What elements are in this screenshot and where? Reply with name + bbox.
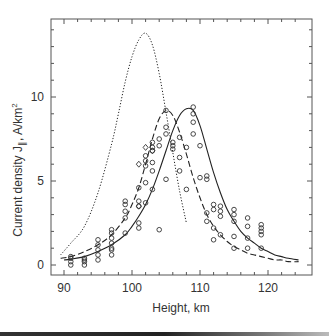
data-point [96,238,101,243]
y-axis-label: Current density J∥, A/km2 [10,103,27,237]
data-point [137,221,142,226]
data-point [150,160,155,165]
data-point [211,202,216,207]
data-point [150,140,155,145]
data-point [164,132,169,137]
data-point [232,234,237,239]
data-point [123,216,128,221]
data-point [218,204,223,209]
y-tick-label: 10 [31,90,45,104]
data-point [211,207,216,212]
data-point [218,209,223,214]
solid-fit-line [64,108,299,260]
x-tick-label: 90 [57,281,71,295]
bottom-bar [0,332,329,336]
data-point [245,246,250,251]
x-tick-label: 120 [258,281,278,295]
data-point-diamond [136,161,141,167]
x-tick-label: 100 [122,281,142,295]
x-tick-label: 110 [190,281,209,295]
data-point-diamond [143,144,148,150]
data-point [109,253,114,258]
data-point [164,177,169,182]
data-point [177,169,182,174]
plot-frame [51,19,312,275]
y-tick-label: 0 [37,258,44,272]
data-point [211,238,216,243]
data-point [191,120,196,125]
chart: 901001101200510 Height, km Current densi… [0,0,329,336]
data-point [232,212,237,217]
data-point [143,154,148,159]
data-point [218,214,223,219]
data-point [191,132,196,137]
data-point [96,253,101,258]
data-point [123,199,128,204]
data-point [245,224,250,229]
data-point [157,143,162,148]
data-point [198,175,203,180]
data-point [177,155,182,160]
data-points [69,105,264,268]
data-point [184,187,189,192]
data-point [137,226,142,231]
dotted-model-line [61,33,187,255]
data-point [191,105,196,110]
data-point [157,137,162,142]
data-point [259,232,264,237]
data-point [109,227,114,232]
data-point [143,180,148,185]
data-point [205,219,210,224]
data-point [164,125,169,130]
x-axis-label: Height, km [152,301,209,315]
axis-ticks: 901001101200510 [31,19,312,295]
data-point [205,177,210,182]
data-point [232,207,237,212]
data-point [123,209,128,214]
data-point [157,227,162,232]
data-point [96,258,101,263]
series-layer [61,33,299,262]
data-point [245,216,250,221]
data-point [198,143,203,148]
data-point [150,169,155,174]
y-tick-label: 5 [37,174,44,188]
data-point [109,236,114,241]
